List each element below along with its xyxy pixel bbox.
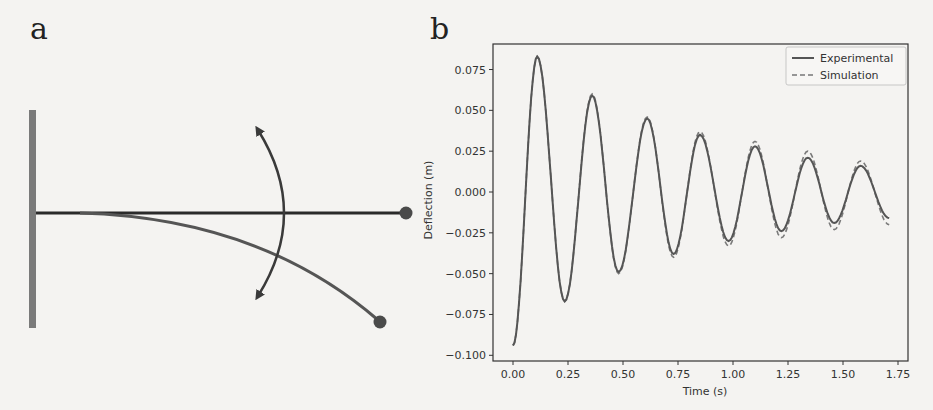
y-tick-label: −0.100 bbox=[445, 349, 486, 362]
legend: Experimental Simulation bbox=[786, 47, 906, 85]
x-tick-label: 0.75 bbox=[666, 368, 691, 381]
legend-simulation-label: Simulation bbox=[820, 69, 879, 82]
figure: 0.0750.0500.0250.000−0.025−0.050−0.075−0… bbox=[0, 0, 933, 410]
experimental-line bbox=[513, 57, 889, 346]
legend-experimental-label: Experimental bbox=[820, 52, 893, 65]
x-tick-label: 0.00 bbox=[501, 368, 526, 381]
tip-mass-deflected bbox=[374, 316, 387, 329]
x-tick-label: 0.50 bbox=[611, 368, 636, 381]
y-axis-ticks: 0.0750.0500.0250.000−0.025−0.050−0.075−0… bbox=[445, 64, 493, 363]
x-tick-label: 1.50 bbox=[831, 368, 856, 381]
y-tick-label: −0.075 bbox=[445, 308, 486, 321]
simulation-line bbox=[513, 57, 889, 346]
x-axis-ticks: 0.000.250.500.751.001.251.501.75 bbox=[501, 361, 911, 381]
y-tick-label: 0.000 bbox=[455, 186, 487, 199]
x-tick-label: 1.00 bbox=[721, 368, 746, 381]
y-tick-label: −0.025 bbox=[445, 227, 486, 240]
y-tick-label: 0.075 bbox=[455, 64, 487, 77]
deflected-beam bbox=[80, 213, 378, 320]
cantilever-diagram bbox=[29, 110, 413, 329]
deflection-chart: 0.0750.0500.0250.000−0.025−0.050−0.075−0… bbox=[422, 44, 910, 398]
y-axis-label: Deflection (m) bbox=[422, 161, 435, 240]
wall bbox=[29, 110, 36, 328]
y-tick-label: −0.050 bbox=[445, 268, 486, 281]
tip-mass-straight bbox=[400, 207, 413, 220]
y-tick-label: 0.050 bbox=[455, 104, 487, 117]
y-tick-label: 0.025 bbox=[455, 145, 487, 158]
x-tick-label: 0.25 bbox=[556, 368, 581, 381]
x-tick-label: 1.25 bbox=[776, 368, 801, 381]
x-axis-label: Time (s) bbox=[682, 385, 728, 398]
x-tick-label: 1.75 bbox=[886, 368, 911, 381]
